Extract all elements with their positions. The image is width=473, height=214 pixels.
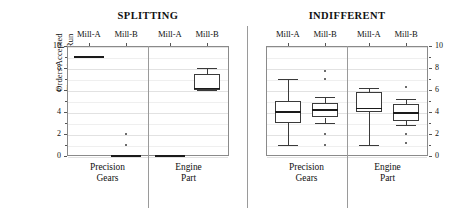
outlier-point xyxy=(405,133,407,135)
boxplot-figure: Orders Accepted Throughout Run SPLITTING… xyxy=(0,0,473,214)
whisker-cap-upper xyxy=(396,99,416,100)
outlier-point xyxy=(405,86,407,88)
box-median-line xyxy=(393,112,419,114)
boxplot-indifferent-engine-part-mill-b xyxy=(0,0,473,214)
outlier-point xyxy=(405,142,407,144)
whisker-cap-lower xyxy=(396,125,416,126)
